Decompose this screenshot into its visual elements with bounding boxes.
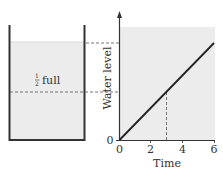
x-tick-label-0: 0 [116,143,123,156]
x-tick-label-6: 6 [211,143,218,156]
x-tick-label-4: 4 [179,143,186,156]
fraction-numerator: 1 [35,72,39,79]
y-axis-arrow-icon [117,11,122,18]
x-axis-label: Time [153,157,181,170]
fraction-denominator: 2 [35,80,39,87]
y-axis-label: Water level [101,46,114,109]
x-tick-label-2: 2 [147,143,154,156]
water-fill [10,42,84,140]
y-tick-label-0: 0 [107,134,114,147]
figure: 1 2 full 0 2 4 6 0 Time Water level [0,0,223,174]
plot-area [120,27,215,140]
chart: 0 2 4 6 0 Time Water level [101,11,218,170]
half-full-label: full [42,74,61,87]
